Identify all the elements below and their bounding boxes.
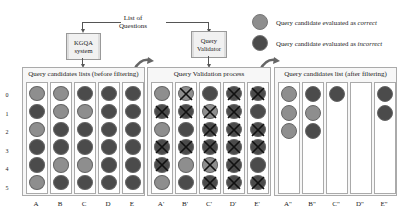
row-label-0: 0 — [3, 92, 11, 98]
kgqa-system-box: KGQA system — [66, 33, 101, 60]
query-candidate-correct-rejected — [202, 157, 218, 172]
candidate-list-C — [74, 82, 96, 194]
row-label-3: 3 — [3, 148, 11, 154]
query-candidate-incorrect — [178, 175, 194, 190]
cross-icon — [202, 104, 218, 120]
cross-icon — [226, 122, 242, 138]
column-label: E" — [374, 200, 394, 208]
query-candidate-incorrect-rejected — [226, 175, 242, 190]
cross-icon — [226, 104, 242, 120]
query-candidate-incorrect — [305, 86, 321, 102]
query-candidate-incorrect-rejected — [226, 86, 242, 101]
legend-correct-text: Query candidate evaluated as correct — [276, 19, 377, 26]
query-candidate-correct — [53, 104, 69, 119]
cross-icon — [202, 139, 218, 155]
kgqa-line1: KGQA — [74, 39, 93, 47]
column-label: D" — [350, 200, 370, 208]
query-candidate-incorrect — [29, 139, 45, 154]
query-candidate-incorrect — [125, 122, 141, 137]
query-candidate-incorrect-rejected — [202, 139, 218, 154]
candidate-list-D-prime — [223, 82, 245, 194]
query-candidate-incorrect — [101, 175, 117, 190]
query-candidate-incorrect — [101, 122, 117, 137]
query-candidate-incorrect-rejected — [250, 175, 266, 190]
query-candidate-correct — [281, 123, 297, 139]
query-candidate-correct — [305, 105, 321, 121]
query-candidate-incorrect-rejected — [202, 175, 218, 190]
candidate-list-D — [98, 82, 120, 194]
row-label-1: 1 — [3, 111, 11, 117]
query-candidate-incorrect-rejected — [226, 157, 242, 172]
query-candidate-incorrect — [77, 139, 93, 154]
source-line2: Questions — [108, 22, 158, 30]
query-candidate-incorrect-rejected — [226, 104, 242, 119]
query-validator-box: Query Validator — [191, 31, 227, 58]
query-candidate-incorrect-rejected — [226, 139, 242, 154]
cross-icon — [202, 157, 218, 173]
query-candidate-incorrect — [101, 157, 117, 172]
query-candidate-correct — [29, 122, 45, 137]
column-label: B — [50, 200, 70, 208]
query-candidate-incorrect-rejected — [250, 139, 266, 154]
row-label-5: 5 — [3, 185, 11, 191]
legend-correct: Query candidate evaluated as correct — [252, 14, 377, 30]
query-candidate-incorrect — [250, 104, 266, 119]
column-label: B' — [175, 200, 195, 208]
cross-icon — [178, 139, 194, 155]
column-label: C — [74, 200, 94, 208]
cross-icon — [202, 175, 218, 191]
column-label: A' — [151, 200, 171, 208]
kgqa-line2: system — [74, 47, 93, 55]
query-candidate-incorrect — [29, 157, 45, 172]
validator-line1: Query — [197, 37, 221, 45]
query-candidate-incorrect — [101, 139, 117, 154]
cross-icon — [226, 175, 242, 191]
panel-title: Query candidates list (after filtering) — [275, 70, 396, 78]
column-label: C" — [326, 200, 346, 208]
query-candidate-incorrect — [125, 104, 141, 119]
query-candidate-correct — [77, 104, 93, 119]
cross-icon — [178, 104, 194, 120]
cross-icon — [226, 139, 242, 155]
candidate-list-E-dprime — [374, 82, 396, 194]
cross-icon — [154, 139, 170, 155]
cross-icon — [178, 86, 194, 102]
row-label-4: 4 — [3, 166, 11, 172]
query-candidate-correct — [281, 86, 297, 102]
query-candidate-incorrect — [77, 175, 93, 190]
query-candidate-incorrect — [29, 104, 45, 119]
query-candidate-incorrect — [101, 86, 117, 101]
column-label: E' — [247, 200, 267, 208]
query-candidate-incorrect — [202, 86, 218, 101]
panel-title: Query Validation process — [148, 70, 270, 78]
cross-icon — [250, 86, 266, 102]
column-label: D — [98, 200, 118, 208]
connector-right-h — [166, 22, 208, 23]
query-candidate-incorrect-rejected — [178, 139, 194, 154]
query-candidate-incorrect-rejected — [178, 104, 194, 119]
cross-icon — [226, 86, 242, 102]
query-candidate-incorrect — [53, 139, 69, 154]
validator-line2: Validator — [197, 45, 221, 53]
legend-correct-swatch — [252, 14, 268, 30]
query-candidate-incorrect — [77, 86, 93, 101]
column-label: E — [122, 200, 142, 208]
row-label-2: 2 — [3, 129, 11, 135]
query-candidate-incorrect — [101, 104, 117, 119]
candidate-list-D-dprime — [350, 82, 372, 194]
query-candidate-incorrect-rejected — [154, 157, 170, 172]
legend-incorrect-swatch — [252, 35, 268, 51]
query-candidate-incorrect — [305, 123, 321, 139]
query-candidate-correct — [53, 86, 69, 101]
cross-icon — [202, 122, 218, 138]
cross-icon — [250, 122, 266, 138]
query-candidate-incorrect — [250, 157, 266, 172]
query-candidate-correct — [154, 175, 170, 190]
candidate-list-C-prime — [199, 82, 221, 194]
cross-icon — [250, 175, 266, 191]
query-candidate-incorrect — [377, 86, 393, 102]
cross-icon — [226, 157, 242, 173]
query-candidate-incorrect — [125, 86, 141, 101]
query-candidate-correct — [178, 157, 194, 172]
legend-incorrect-text: Query candidate evaluated as incorrect — [276, 40, 382, 47]
